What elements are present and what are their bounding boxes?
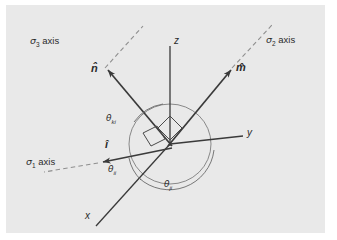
theta-ii-arc [129,158,141,180]
figure-root: σ3 axis σ2 axis σ1 axis z y x n̂ m̂ î θ… [0,0,337,240]
i-hat-label: î [105,139,108,150]
theta-ii-subscript: ii [114,170,117,176]
m-hat-label: m̂ [236,62,246,73]
y-axis-label: y [247,128,252,138]
x-axis-label: x [85,211,90,221]
z-axis-label: z [174,36,179,46]
theta-ji-subscript: ji [170,185,173,191]
theta-ki-label: θki [106,114,116,125]
sigma-2-axis-label: σ2 axis [266,35,295,47]
m-hat-arrow [168,70,231,146]
theta-ii-label: θii [108,165,116,176]
sigma-1-axis-label: σ1 axis [26,157,55,169]
sigma-3-axis-label: σ3 axis [30,36,59,48]
right-angle-marker-left [143,126,165,146]
i-hat-arrow [103,148,172,162]
sigma-1-suffix: axis [36,156,56,167]
sigma-2-suffix: axis [276,34,296,45]
sigma-3-dashed-line [105,26,143,68]
theta-ji-label: θji [164,180,172,191]
sigma-3-suffix: axis [40,35,60,46]
n-hat-label: n̂ [91,63,98,74]
theta-ki-subscript: ki [112,119,116,125]
y-axis-line [170,136,243,144]
